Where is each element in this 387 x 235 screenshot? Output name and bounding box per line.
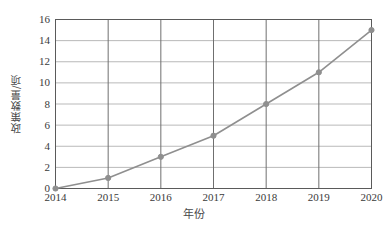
- x-tick-label: 2017: [192, 191, 236, 204]
- line-chart: 政策数量/项 0246810121416 2014201520162017201…: [0, 0, 387, 235]
- x-tick-label: 2014: [34, 191, 78, 204]
- x-tick-label: 2018: [244, 191, 288, 204]
- x-tick-label: 2015: [86, 191, 130, 204]
- x-tick-label: 2019: [297, 191, 341, 204]
- x-axis-title: 年份: [0, 208, 387, 221]
- x-tick-label: 2016: [139, 191, 183, 204]
- x-axis-tick-labels: 2014201520162017201820192020: [0, 0, 387, 235]
- x-tick-label: 2020: [350, 191, 387, 204]
